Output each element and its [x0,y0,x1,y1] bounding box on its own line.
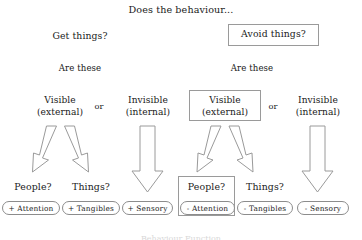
left-invisible-line1: Invisible [128,95,168,105]
outcome-pill-plus-attention[interactable]: + Attention [2,201,60,215]
diagram-title: Does the behaviour... [0,4,362,15]
right-visible-line1: Visible [209,95,241,105]
arrow-left-invisible-to-sensory [132,126,163,192]
arrow-left-visible-to-things [65,126,89,172]
right-people-label[interactable]: People? [178,181,235,192]
outcome-pill-plus-tangibles[interactable]: + Tangibles [62,201,120,215]
outcome-pill-minus-tangibles[interactable]: - Tangibles [237,201,293,215]
outcome-pill-minus-sensory[interactable]: - Sensory [297,201,349,215]
right-invisible-internal-label[interactable]: Invisible (internal) [276,95,360,118]
left-invisible-line2: (internal) [126,107,170,117]
right-invisible-line1: Invisible [298,95,338,105]
right-things-label[interactable]: Things? [234,181,296,192]
branch-question-get-things[interactable]: Get things? [20,31,140,42]
arrow-right-invisible-to-sensory [302,126,333,192]
right-invisible-line2: (internal) [296,107,340,117]
left-things-label[interactable]: Things? [60,181,122,192]
right-visible-external-label[interactable]: Visible (external) [189,95,261,118]
outcome-pill-minus-attention[interactable]: - Attention [180,201,235,215]
left-invisible-internal-label[interactable]: Invisible (internal) [106,95,190,118]
left-visible-line2: (external) [37,107,83,117]
arrow-left-visible-to-people [33,126,57,172]
outcome-pill-plus-sensory[interactable]: + Sensory [122,201,173,215]
arrow-right-visible-to-people [197,126,221,172]
left-people-label[interactable]: People? [2,181,64,192]
are-these-label-left: Are these [20,63,140,73]
right-visible-line2: (external) [202,107,248,117]
diagram-canvas: Does the behaviour... Get things? Avoid … [0,0,362,240]
branch-question-avoid-things[interactable]: Avoid things? [228,29,319,40]
left-visible-line1: Visible [44,95,76,105]
bottom-caption-cutoff: Behaviour Function [0,234,362,240]
arrow-right-visible-to-things [229,126,253,172]
are-these-label-right: Are these [192,63,312,73]
